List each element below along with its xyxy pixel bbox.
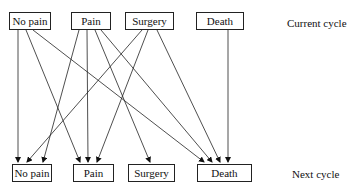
state-label: Surgery — [132, 15, 167, 27]
current-cycle-label: Current cycle — [287, 17, 347, 29]
state-label: No pain — [14, 167, 49, 179]
arrow-surgery-to-death — [157, 30, 220, 162]
current-state-surgery: Surgery — [125, 12, 174, 30]
state-label: Death — [207, 15, 233, 27]
next-state-death: Death — [197, 164, 252, 182]
arrow-surgery-to-nopain — [27, 30, 142, 162]
arrow-pain-to-death — [101, 30, 212, 162]
state-label: Pain — [81, 15, 101, 27]
next-state-pain: Pain — [73, 164, 114, 182]
next-state-surgery: Surgery — [128, 164, 175, 182]
current-state-death: Death — [196, 12, 244, 30]
state-label: Surgery — [134, 167, 169, 179]
next-cycle-label: Next cycle — [292, 168, 339, 180]
arrow-surgery-to-pain — [97, 30, 148, 162]
arrow-pain-to-pain — [87, 30, 88, 162]
current-state-no-pain: No pain — [9, 12, 51, 30]
state-label: No pain — [12, 15, 47, 27]
current-state-pain: Pain — [71, 12, 111, 30]
arrow-nopain-to-pain — [26, 30, 80, 162]
arrow-pain-to-nopain — [43, 30, 79, 162]
state-label: Pain — [84, 167, 104, 179]
arrow-nopain-to-death — [33, 30, 204, 162]
state-label: Death — [211, 167, 237, 179]
next-state-no-pain: No pain — [12, 164, 52, 182]
